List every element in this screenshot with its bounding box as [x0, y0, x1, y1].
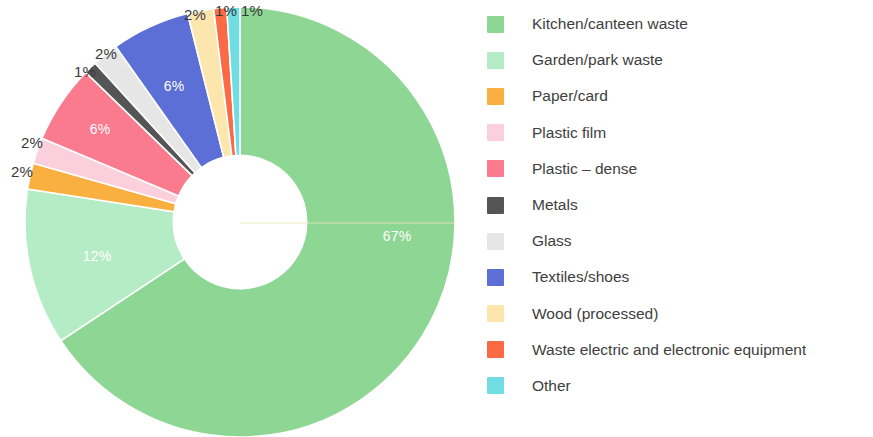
- legend-item-label: Textiles/shoes: [532, 268, 629, 286]
- legend-item[interactable]: Waste electric and electronic equipment: [487, 332, 873, 368]
- legend-item-label: Metals: [532, 196, 578, 214]
- legend-item[interactable]: Garden/park waste: [487, 42, 873, 78]
- legend-item[interactable]: Wood (processed): [487, 296, 873, 332]
- slice-percentage-label: 2%: [95, 46, 117, 61]
- legend-swatch-icon: [487, 16, 504, 33]
- legend-item-label: Glass: [532, 232, 572, 250]
- legend-swatch-icon: [487, 305, 504, 322]
- slice-percentage-label: 12%: [83, 249, 112, 263]
- slice-percentage-label: 2%: [11, 164, 33, 179]
- legend-item-label: Other: [532, 377, 571, 395]
- legend-item[interactable]: Glass: [487, 223, 873, 259]
- legend-item[interactable]: Kitchen/canteen waste: [487, 6, 873, 42]
- chart-legend: Kitchen/canteen wasteGarden/park wastePa…: [487, 6, 873, 406]
- donut-chart-svg: [0, 0, 470, 437]
- slice-percentage-label: 2%: [21, 135, 43, 150]
- legend-swatch-icon: [487, 124, 504, 141]
- legend-item-label: Waste electric and electronic equipment: [532, 341, 806, 359]
- slice-percentage-label: 6%: [90, 122, 111, 136]
- legend-item[interactable]: Plastic – dense: [487, 151, 873, 187]
- legend-item-label: Kitchen/canteen waste: [532, 15, 688, 33]
- slice-percentage-label: 2%: [184, 7, 206, 22]
- legend-swatch-icon: [487, 88, 504, 105]
- legend-item-label: Plastic film: [532, 124, 606, 142]
- slice-percentage-label: 67%: [383, 229, 412, 243]
- legend-item-label: Garden/park waste: [532, 51, 663, 69]
- legend-item-label: Wood (processed): [532, 305, 658, 323]
- slice-percentage-label: 1%: [215, 3, 237, 18]
- legend-item-label: Paper/card: [532, 87, 608, 105]
- legend-swatch-icon: [487, 269, 504, 286]
- legend-item[interactable]: Other: [487, 368, 873, 404]
- slice-percentage-label: 6%: [164, 79, 185, 93]
- legend-item[interactable]: Metals: [487, 187, 873, 223]
- slice-percentage-label: 1%: [241, 3, 263, 18]
- legend-swatch-icon: [487, 160, 504, 177]
- legend-item[interactable]: Paper/card: [487, 78, 873, 114]
- chart-plot-area: 67%12%2%2%6%1%2%6%2%1%1%: [0, 0, 470, 437]
- slice-percentage-label: 1%: [74, 64, 96, 79]
- legend-swatch-icon: [487, 233, 504, 250]
- legend-swatch-icon: [487, 197, 504, 214]
- legend-swatch-icon: [487, 52, 504, 69]
- legend-item[interactable]: Textiles/shoes: [487, 259, 873, 295]
- legend-item[interactable]: Plastic film: [487, 115, 873, 151]
- legend-item-label: Plastic – dense: [532, 160, 637, 178]
- legend-swatch-icon: [487, 341, 504, 358]
- legend-swatch-icon: [487, 377, 504, 394]
- donut-chart-figure: 67%12%2%2%6%1%2%6%2%1%1% Kitchen/canteen…: [0, 0, 873, 437]
